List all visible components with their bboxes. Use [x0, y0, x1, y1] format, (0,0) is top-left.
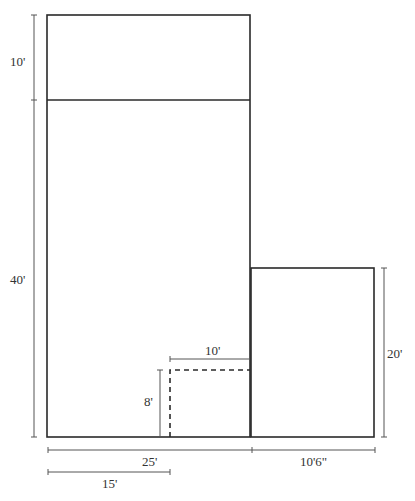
- label-offset-width: 15': [102, 476, 117, 491]
- closet-dashed-outline: [170, 370, 250, 437]
- floor-plan: 10' 40' 20' 10' 8' 25' 10'6": [0, 0, 415, 501]
- label-closet-width: 10': [205, 343, 220, 358]
- label-main-height: 40': [10, 272, 25, 287]
- dim-closet-height: 8': [144, 370, 163, 437]
- dim-offset-width: 15': [48, 469, 170, 491]
- dim-main-width: 25': [48, 447, 252, 469]
- dim-side-width: 10'6": [252, 447, 375, 469]
- label-closet-height: 8': [144, 394, 153, 409]
- label-side-height: 20': [387, 346, 402, 361]
- side-room-outline: [251, 268, 374, 437]
- dim-top-height: 10': [10, 15, 37, 100]
- main-building-outline: [47, 15, 250, 437]
- dim-closet-width: 10': [170, 343, 250, 362]
- label-side-width: 10'6": [300, 454, 327, 469]
- label-top-height: 10': [10, 54, 25, 69]
- dim-side-height: 20': [381, 268, 402, 437]
- dim-main-height: 40': [10, 100, 37, 437]
- label-main-width: 25': [142, 454, 157, 469]
